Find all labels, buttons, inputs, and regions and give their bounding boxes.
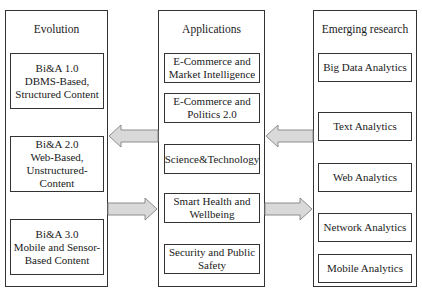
research-item-big-data: Big Data Analytics <box>318 53 412 82</box>
research-item-mobile-analytics: Mobile Analytics <box>318 254 412 283</box>
research-item-network-analytics: Network Analytics <box>318 213 412 242</box>
research-item-web-analytics: Web Analytics <box>318 163 412 192</box>
application-item-ecommerce-market: E-Commerce and Market Intelligence <box>164 53 260 83</box>
research-item-text-analytics: Text Analytics <box>318 112 412 141</box>
applications-title: Applications <box>159 23 264 35</box>
application-item-smart-health: Smart Health and Wellbeing <box>164 193 260 223</box>
applications-column: Applications E-Commerce and Market Intel… <box>158 10 265 287</box>
arrow-right-evolution-to-applications-icon <box>108 197 158 221</box>
arrow-left-applications-to-evolution-icon <box>108 124 158 148</box>
evolution-item-bia-1: Bi&A 1.0 DBMS-Based, Structured Content <box>10 53 104 109</box>
emerging-research-title: Emerging research <box>314 23 416 35</box>
arrow-left-research-to-applications-icon <box>265 124 313 148</box>
evolution-title: Evolution <box>6 23 107 35</box>
evolution-item-bia-3: Bi&A 3.0 Mobile and Sensor- Based Conten… <box>10 219 104 275</box>
evolution-column: Evolution Bi&A 1.0 DBMS-Based, Structure… <box>5 10 108 287</box>
emerging-research-column: Emerging research Big Data Analytics Tex… <box>313 10 417 287</box>
application-item-science-technology: Science&Technology <box>164 144 260 174</box>
arrow-right-applications-to-research-icon <box>265 197 313 221</box>
evolution-item-bia-2: Bi&A 2.0 Web-Based, Unstructured-Content <box>10 136 104 192</box>
application-item-security-safety: Security and Public Safety <box>164 244 260 274</box>
application-item-ecommerce-politics: E-Commerce and Politics 2.0 <box>164 93 260 123</box>
